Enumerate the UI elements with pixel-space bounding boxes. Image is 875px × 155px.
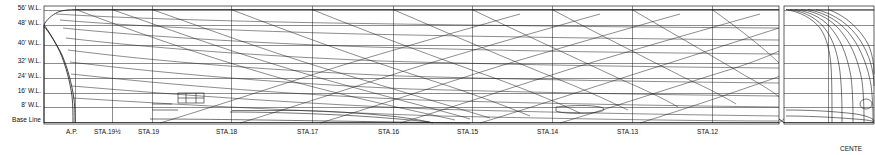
center-line-caption: CENTE (840, 145, 862, 152)
station-label-19-half: STA.19½ (94, 128, 121, 135)
waterline-label-48: 48' W.L. (0, 19, 41, 26)
station-label-12: STA.12 (697, 128, 718, 135)
base-line-ticks (779, 119, 784, 123)
station-label-13: STA.13 (617, 128, 638, 135)
hull-lines-svg (0, 0, 875, 155)
buttock-lines (56, 14, 779, 121)
waterline-label-8: 8' W.L. (0, 101, 41, 108)
reverse-diagonal-lines (160, 14, 779, 123)
waterline-label-56: 56' W.L. (0, 4, 41, 11)
waterline-label-24: 24' W.L. (0, 72, 41, 79)
keel-detail (44, 111, 779, 124)
waterline-label-16: 16' W.L. (0, 87, 41, 94)
station-label-15: STA.15 (457, 128, 478, 135)
station-label-16: STA.16 (378, 128, 399, 135)
waterline-label-base: Base Line (0, 116, 41, 123)
station-label-ap: A.P. (66, 128, 77, 135)
waterline-label-32: 32' W.L. (0, 57, 41, 64)
waterline-label-40: 40' W.L. (0, 39, 41, 46)
station-label-19: STA.19 (138, 128, 159, 135)
lines-plan-drawing: 56' W.L. 48' W.L. 40' W.L. 32' W.L. 24' … (0, 0, 875, 155)
station-label-17: STA.17 (297, 128, 318, 135)
station-label-18: STA.18 (216, 128, 237, 135)
station-label-14: STA.14 (537, 128, 558, 135)
frame-group (44, 6, 874, 124)
diagonal-lines (76, 10, 779, 121)
station-grid (76, 6, 829, 123)
body-plan-sections (779, 10, 874, 123)
